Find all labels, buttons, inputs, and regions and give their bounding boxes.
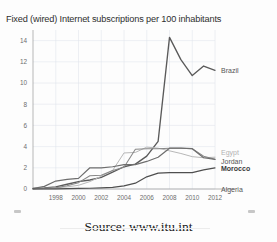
series-label-egypt: Egypt — [221, 149, 239, 157]
y-axis-tick-labels: 02468101214 — [20, 37, 28, 192]
y-tick-label: 8 — [23, 101, 27, 108]
series-label-algeria: Algeria — [221, 186, 243, 194]
x-tick-label: 2006 — [140, 194, 155, 201]
x-tick-label: 2010 — [185, 194, 200, 201]
x-tick-label: 2000 — [71, 194, 86, 201]
chart-figure: Fixed (wired) Internet subscriptions per… — [0, 0, 277, 242]
y-tick-label: 2 — [23, 164, 27, 171]
y-tick-label: 4 — [23, 143, 27, 150]
scroll-left-marker[interactable] — [14, 210, 21, 213]
y-tick-label: 0 — [23, 185, 27, 192]
x-tick-label: 2002 — [94, 194, 109, 201]
series-label-morocco: Morocco — [221, 165, 250, 172]
x-tick-label: 2012 — [208, 194, 223, 201]
scroll-track[interactable] — [60, 228, 210, 229]
source-caption: Source: www.itu.int — [0, 219, 277, 235]
scroll-right-marker[interactable] — [248, 210, 255, 213]
y-tick-label: 10 — [20, 79, 28, 86]
series-label-jordan: Jordan — [221, 158, 243, 165]
x-axis-tick-labels: 19982000200220042006200820102012 — [49, 194, 223, 201]
y-tick-label: 6 — [23, 122, 27, 129]
x-tick-label: 1998 — [49, 194, 64, 201]
series-label-brazil: Brazil — [221, 67, 239, 74]
y-tick-label: 14 — [20, 37, 28, 44]
x-tick-label: 2008 — [162, 194, 177, 201]
series-label-group: BrazilEgyptJordanMoroccoAlgeria — [221, 67, 250, 195]
y-tick-label: 12 — [20, 58, 28, 65]
x-tick-label: 2004 — [117, 194, 132, 201]
line-chart-plot: 02468101214 1998200020022004200620082010… — [0, 22, 277, 217]
